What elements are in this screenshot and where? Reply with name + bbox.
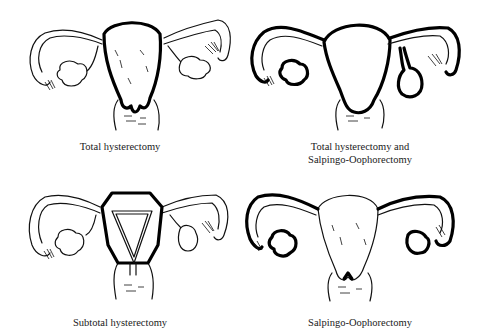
panel-subtotal-hysterectomy: Subtotal hysterectomy [0, 167, 240, 335]
caption-tah-bso-line-2: Salpingo-Oophorectomy [240, 153, 480, 166]
panel-total-hysterectomy-salpingo-oophorectomy: Total hysterectomy and Salpingo-Oophorec… [240, 0, 480, 167]
panel-salpingo-oophorectomy: Salpingo-Oophorectomy [240, 167, 480, 335]
uterus-diagram-salpingo-oophorectomy [240, 167, 481, 335]
uterus-diagram-subtotal-hysterectomy [0, 167, 240, 335]
panel-total-hysterectomy: Total hysterectomy [0, 0, 240, 167]
caption-salpingo-oophorectomy: Salpingo-Oophorectomy [240, 316, 480, 329]
caption-tah-bso-line-1: Total hysterectomy and [240, 140, 480, 153]
caption-subtotal-hysterectomy: Subtotal hysterectomy [0, 316, 240, 329]
caption-total-hysterectomy: Total hysterectomy [0, 140, 240, 153]
